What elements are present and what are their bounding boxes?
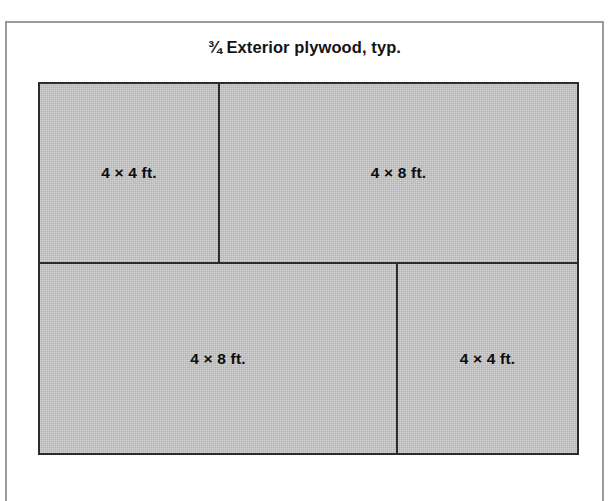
- figure-title: ¾ Exterior plywood, typ.: [7, 38, 602, 57]
- panel-label: 4 × 8 ft.: [371, 164, 427, 182]
- layout-row-bottom: 4 × 8 ft. 4 × 4 ft.: [40, 264, 577, 453]
- panel-label: 4 × 4 ft.: [101, 164, 157, 182]
- panel-label: 4 × 8 ft.: [190, 350, 246, 368]
- plywood-panel-top-right: 4 × 8 ft.: [220, 84, 577, 262]
- plywood-panel-bottom-right: 4 × 4 ft.: [398, 264, 577, 453]
- panel-label: 4 × 4 ft.: [460, 350, 516, 368]
- layout-row-top: 4 × 4 ft. 4 × 8 ft.: [40, 84, 577, 264]
- plywood-cut-layout-diagram: 4 × 4 ft. 4 × 8 ft. 4 × 8 ft. 4 × 4 ft.: [38, 82, 579, 455]
- plywood-panel-top-left: 4 × 4 ft.: [40, 84, 220, 262]
- figure-frame: ¾ Exterior plywood, typ. 4 × 4 ft. 4 × 8…: [5, 21, 604, 501]
- plywood-panel-bottom-left: 4 × 8 ft.: [40, 264, 398, 453]
